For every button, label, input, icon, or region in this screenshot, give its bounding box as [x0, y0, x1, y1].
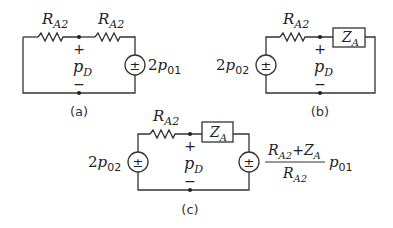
- node-top: [77, 35, 81, 39]
- source-label: 2p01: [148, 56, 181, 77]
- resistor-2-label: RA2: [97, 10, 124, 31]
- minus-sign: −: [184, 173, 196, 189]
- resistor-1-label: RA2: [41, 10, 68, 31]
- panel-b: ± RA2 ZA + pD − 2p02 (b): [216, 10, 375, 119]
- plus-sign: +: [184, 138, 196, 154]
- resistor-label: RA2: [152, 107, 179, 128]
- resistor-label: RA2: [282, 10, 309, 31]
- source-label: 2p02: [216, 56, 249, 77]
- minus-sign: −: [314, 76, 326, 92]
- impedance-label: ZA: [341, 29, 359, 48]
- right-source-label: RA2+ZA RA2 p01: [265, 142, 353, 184]
- wire: [138, 134, 150, 152]
- node-top: [188, 132, 192, 136]
- source-polarity: ±: [130, 58, 141, 73]
- fraction-numerator: RA2+ZA: [267, 142, 321, 161]
- left-source-label: 2p02: [88, 153, 121, 174]
- left-source-polarity: ±: [133, 155, 144, 170]
- right-source-polarity: ±: [244, 155, 255, 170]
- impedance-label: ZA: [209, 124, 227, 143]
- resistor-icon: [280, 33, 333, 41]
- caption-c: (c): [181, 202, 198, 217]
- p01-label: p01: [329, 153, 353, 174]
- panel-a: ± RA2 RA2 + pD − 2p01 (a): [23, 10, 181, 119]
- fraction-denominator: RA2: [282, 165, 307, 184]
- plus-sign: +: [314, 41, 326, 57]
- wire: [233, 134, 249, 152]
- resistor-1-icon: [38, 33, 79, 41]
- plus-sign: +: [73, 41, 85, 57]
- panel-c: ± ± RA2 ZA + pD − 2p02 RA2+ZA RA2 p01 (c…: [88, 107, 353, 217]
- minus-sign: −: [73, 76, 85, 92]
- node-top: [318, 35, 322, 39]
- resistor-2-icon: [95, 33, 135, 55]
- caption-b: (b): [311, 104, 329, 119]
- resistor-icon: [150, 130, 202, 138]
- circuit-figure: ± RA2 RA2 + pD − 2p01 (a) ± RA2 ZA + pD …: [0, 0, 393, 228]
- source-polarity: ±: [261, 58, 272, 73]
- wire: [266, 37, 280, 55]
- caption-a: (a): [70, 104, 88, 119]
